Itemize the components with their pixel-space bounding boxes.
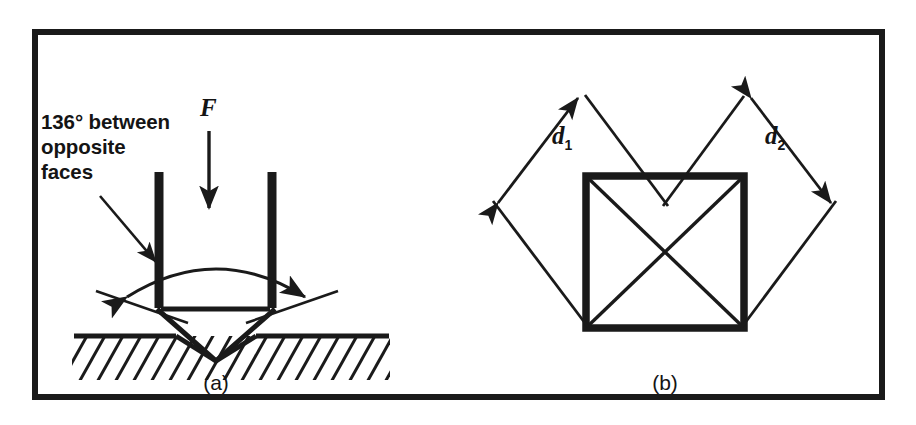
panel-a-group: 136° between opposite faces F (41, 94, 412, 394)
angle-annotation-line1: 136° between (41, 110, 170, 133)
angle-arc (127, 269, 305, 297)
angle-annotation-line3: faces (41, 160, 93, 183)
force-label: F (199, 94, 217, 121)
annotation-leader-arrow (100, 196, 156, 262)
figure-canvas: 136° between opposite faces F (0, 0, 916, 425)
d1-extension-line (493, 201, 588, 327)
panel-b-caption: (b) (652, 371, 678, 394)
d2-extension-line (742, 201, 836, 327)
d1-symbol: d (552, 122, 565, 149)
d2-dimension-arrow (751, 98, 831, 203)
d2-subscript: 2 (778, 137, 786, 153)
panel-b-group: d1 d2 (b) (493, 95, 836, 394)
d1-label: d1 (552, 122, 573, 153)
d1-subscript: 1 (565, 137, 573, 153)
d2-label: d2 (765, 122, 786, 153)
panel-a-caption: (a) (203, 371, 229, 394)
vickers-hardness-figure: 136° between opposite faces F (0, 0, 916, 425)
angle-annotation-line2: opposite (41, 135, 126, 158)
d2-symbol: d (765, 122, 778, 149)
